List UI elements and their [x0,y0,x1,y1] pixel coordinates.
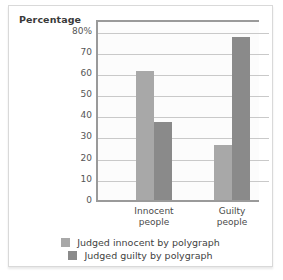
legend-item: Judged guilty by polygraph [68,250,212,261]
y-tick-label: 70 [46,47,92,57]
bar-group [136,20,172,200]
bar-groups [98,20,259,200]
legend-item: Judged innocent by polygraph [61,237,220,248]
y-axis-tick-labels: 01020304050607080% [44,20,92,202]
bar [214,145,232,200]
legend-swatch [68,251,77,260]
chart-figure: Percentage 01020304050607080% Innocentpe… [8,5,273,267]
y-tick-label: 80% [46,26,92,36]
legend-swatch [61,238,70,247]
y-tick-label: 50 [46,89,92,99]
chart-legend: Judged innocent by polygraphJudged guilt… [9,237,272,261]
x-tick-label: Guiltypeople [195,206,269,228]
legend-label: Judged guilty by polygraph [84,250,212,261]
y-tick-label: 40 [46,110,92,120]
bar [154,122,172,200]
x-tick-label: Innocentpeople [117,206,191,228]
bar [232,37,250,200]
y-tick-label: 0 [46,195,92,205]
bar-group [214,20,250,200]
y-tick-label: 10 [46,174,92,184]
x-axis-tick-labels: InnocentpeopleGuiltypeople [98,206,259,236]
bar [136,71,154,200]
y-tick-label: 60 [46,68,92,78]
y-tick-label: 30 [46,131,92,141]
y-tick-label: 20 [46,153,92,163]
legend-label: Judged innocent by polygraph [77,237,220,248]
